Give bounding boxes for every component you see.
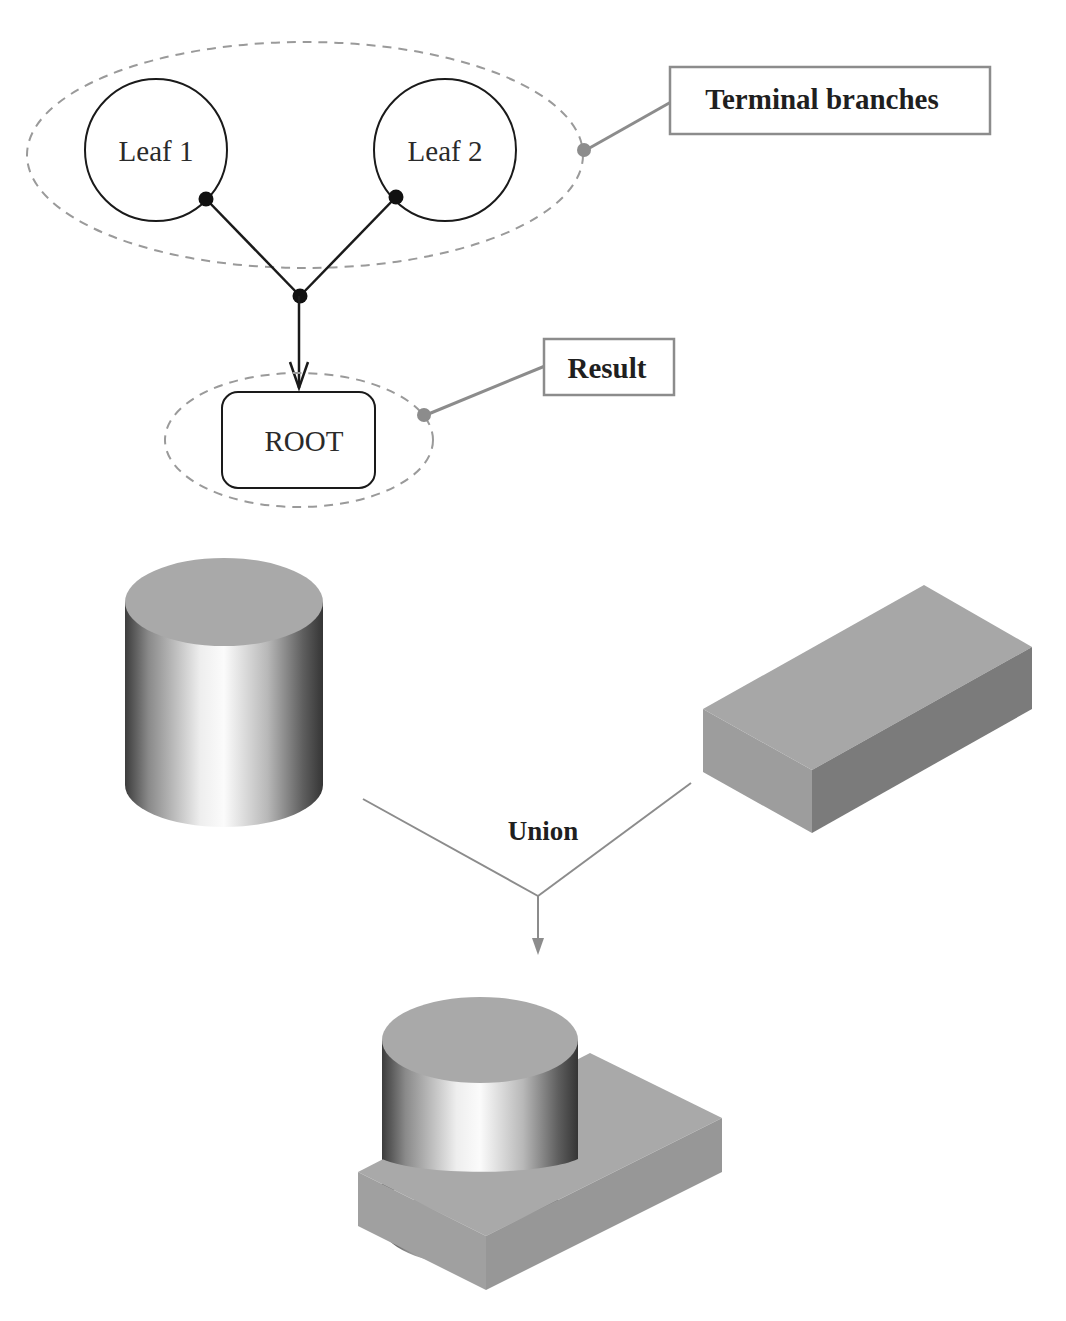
leaf-1-label: Leaf 1 <box>119 135 194 167</box>
box-solid <box>703 585 1032 833</box>
cylinder-top-face <box>125 558 323 646</box>
callout-anchor-dot <box>577 143 591 157</box>
branch-edge-left <box>206 199 300 296</box>
arrow-head-icon <box>532 938 544 955</box>
cylinder-solid <box>125 558 323 827</box>
terminal-branches-callout: Terminal branches <box>577 67 990 157</box>
terminal-branches-group: Leaf 1 Leaf 2 <box>27 42 583 304</box>
union-operation: Union <box>363 783 691 955</box>
leaf-2-connector-dot <box>389 190 404 205</box>
callout-anchor-dot <box>417 408 431 422</box>
root-arrow <box>290 296 308 388</box>
leaf-1-connector-dot <box>199 192 214 207</box>
union-result-solid <box>358 997 722 1290</box>
result-callout: Result <box>417 339 674 422</box>
result-label: Result <box>568 352 647 384</box>
terminal-branches-label: Terminal branches <box>705 83 938 115</box>
leaf-2-label: Leaf 2 <box>408 135 483 167</box>
result-cylinder-top-face <box>382 997 578 1083</box>
union-label: Union <box>508 816 579 846</box>
branch-edge-right <box>300 197 396 296</box>
result-group: ROOT <box>165 373 433 507</box>
csg-tree-diagram: Leaf 1 Leaf 2 ROOT Terminal branches Res… <box>0 0 1066 1321</box>
root-label: ROOT <box>265 425 344 457</box>
